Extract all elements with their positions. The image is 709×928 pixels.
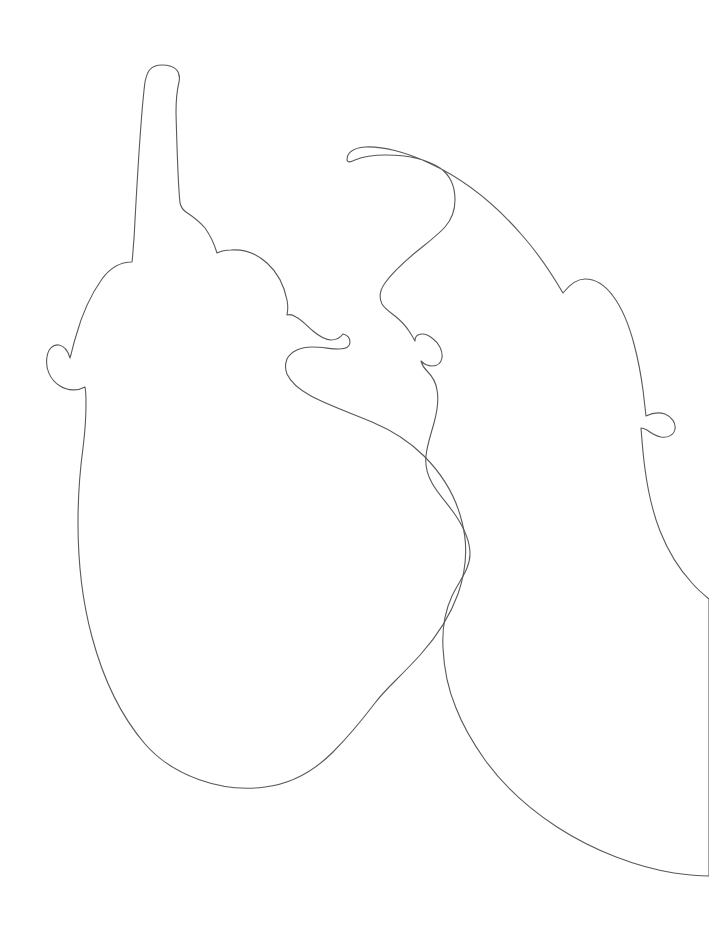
eggplant-outline-illustration [0,0,709,928]
drawing-canvas [0,0,709,928]
drawing-background [0,0,709,928]
